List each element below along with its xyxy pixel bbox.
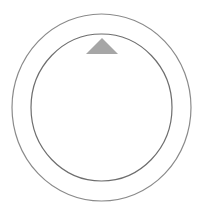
triangle-up-icon bbox=[86, 38, 118, 54]
dial-graphic bbox=[0, 0, 200, 209]
dial-knob[interactable] bbox=[31, 34, 172, 181]
dial-widget[interactable] bbox=[0, 0, 200, 209]
